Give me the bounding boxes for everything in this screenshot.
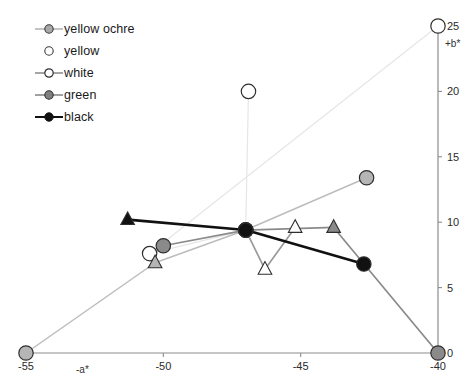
legend-item-yellow-ochre[interactable]: yellow ochre: [34, 18, 204, 40]
legend-item-white[interactable]: white: [34, 62, 204, 84]
y-tick-label: 15: [447, 151, 459, 163]
data-point: [19, 346, 33, 360]
y-tick-label: 10: [447, 216, 459, 228]
data-point: [357, 257, 371, 271]
x-axis-title: -a*: [76, 364, 89, 375]
data-point: [431, 346, 445, 360]
x-tick-label: -45: [293, 360, 309, 372]
legend-label-black: black: [64, 107, 94, 127]
series-markers-yellow-ochre: [19, 171, 374, 361]
data-point: [121, 212, 135, 225]
series-line-white: [246, 227, 295, 269]
legend-marker-green: [34, 85, 64, 105]
y-tick-label: 25: [447, 20, 459, 32]
legend-label-yellow: yellow: [64, 41, 99, 61]
data-point: [431, 19, 445, 33]
series-polyline: [26, 178, 367, 353]
y-tick-label: 0: [447, 347, 453, 359]
chart-legend: yellow ochre yellow white: [34, 18, 204, 128]
y-tick-label: 5: [447, 282, 453, 294]
data-point: [156, 239, 170, 253]
legend-label-green: green: [64, 85, 96, 105]
legend-marker-black: [34, 107, 64, 127]
data-point: [327, 220, 341, 233]
legend-label-white: white: [64, 63, 94, 83]
legend-marker-yellow: [34, 41, 64, 61]
x-tick-label: -40: [430, 360, 446, 372]
legend-label-yellow-ochre: yellow ochre: [64, 19, 135, 39]
x-tick-label: -55: [18, 360, 34, 372]
series-line-yellow-ochre: [26, 178, 367, 353]
legend-item-green[interactable]: green: [34, 84, 204, 106]
data-point: [288, 220, 302, 233]
chart-root: -55-50-45-400510152025 yellow ochre yell…: [0, 0, 471, 391]
series-polyline: [246, 227, 295, 269]
y-tick-label: 20: [447, 85, 459, 97]
legend-item-yellow[interactable]: yellow: [34, 40, 204, 62]
data-point: [359, 171, 373, 185]
x-tick-label: -50: [155, 360, 171, 372]
data-point: [241, 84, 255, 98]
legend-marker-white: [34, 63, 64, 83]
legend-marker-yellow-ochre: [34, 19, 64, 39]
data-point: [239, 223, 253, 237]
legend-item-black[interactable]: black: [34, 106, 204, 128]
y-axis-title: +b*: [445, 38, 460, 49]
